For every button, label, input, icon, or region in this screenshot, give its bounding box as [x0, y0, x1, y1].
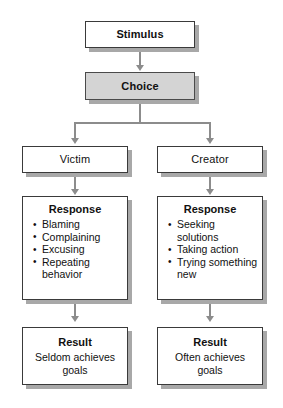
list-item: Complaining	[33, 231, 123, 244]
node-choice: Choice	[85, 72, 195, 100]
victim-result-text: Seldom achieves goals	[27, 351, 123, 376]
creator-response-list: Seeking solutions Taking action Trying s…	[158, 218, 262, 281]
arrowhead-creator-to-response	[206, 189, 214, 195]
connector-branch-right-drop	[209, 122, 211, 139]
flowchart-canvas: Stimulus Choice Victim Creator Response …	[0, 0, 283, 408]
connector-branch-left-drop	[74, 122, 76, 139]
node-creator-result: Result Often achieves goals	[157, 327, 263, 385]
arrowhead-victim-to-response	[71, 189, 79, 195]
node-creator-label: Creator	[191, 153, 228, 166]
list-item: Taking action	[168, 243, 258, 256]
creator-result-text: Often achieves goals	[162, 351, 258, 376]
arrowhead-branch-right	[206, 138, 214, 144]
victim-result-heading: Result	[58, 336, 92, 348]
list-item: Blaming	[33, 218, 123, 231]
node-stimulus: Stimulus	[85, 21, 195, 48]
node-creator-response: Response Seeking solutions Taking action…	[157, 196, 263, 300]
list-item: Trying something new	[168, 256, 258, 281]
creator-response-heading: Response	[158, 203, 262, 215]
node-victim-result: Result Seldom achieves goals	[22, 327, 128, 385]
node-victim-response: Response Blaming Complaining Excusing Re…	[22, 196, 128, 300]
victim-response-list: Blaming Complaining Excusing Repeating b…	[23, 218, 127, 281]
arrowhead-stimulus-to-choice	[136, 65, 144, 71]
node-choice-label: Choice	[121, 80, 158, 93]
node-stimulus-label: Stimulus	[116, 28, 163, 41]
arrowhead-victim-response-to-result	[71, 316, 79, 322]
list-item: Seeking solutions	[168, 218, 258, 243]
connector-choice-stem	[139, 104, 141, 123]
creator-result-heading: Result	[193, 336, 227, 348]
list-item: Repeating behavior	[33, 256, 123, 281]
victim-response-heading: Response	[23, 203, 127, 215]
connector-stimulus-to-choice	[139, 52, 141, 66]
connector-branch-bar	[74, 122, 211, 124]
node-creator: Creator	[157, 146, 263, 173]
arrowhead-creator-response-to-result	[206, 316, 214, 322]
node-victim: Victim	[22, 146, 128, 173]
arrowhead-branch-left	[71, 138, 79, 144]
list-item: Excusing	[33, 243, 123, 256]
node-victim-label: Victim	[60, 153, 90, 166]
